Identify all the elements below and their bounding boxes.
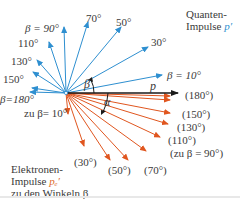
bottom-divider: [0, 196, 240, 198]
label-photon-50: 50°: [116, 16, 131, 28]
photon-arrow-50: [66, 27, 121, 93]
label-alpha-angle: α: [104, 96, 110, 108]
legend-electron: Elektronen- Impulse pₑ′ zu den Winkeln β: [11, 163, 88, 199]
label-electron-70: (70°): [144, 164, 167, 176]
alpha-arc-arrowhead: [101, 110, 106, 115]
electron-symbol: pₑ′: [49, 175, 60, 187]
electron-arrow-30: [66, 93, 84, 146]
beta-angle-arc: [91, 80, 94, 93]
legend-photon-line2: Impulse p′: [186, 20, 232, 32]
legend-electron-line2: Impulse pₑ′: [11, 175, 88, 187]
label-photon-130: 130°: [11, 55, 32, 67]
label-beta-180: β=180°: [0, 93, 34, 105]
label-beta-angle: β: [84, 78, 90, 90]
photon-arrow-90: [64, 27, 66, 93]
legend-electron-line1: Elektronen-: [11, 163, 88, 175]
photon-arrow-130: [37, 60, 66, 93]
legend-photon-line1: Quanten-: [186, 8, 232, 20]
photon-arrow-150: [33, 72, 66, 93]
legend-photon: Quanten- Impulse p′: [186, 8, 232, 32]
electron-arrow-130: [66, 93, 168, 124]
label-photon-110: 110°: [18, 37, 39, 49]
label-incident-p: p: [150, 80, 156, 92]
label-beta-10: β = 10°: [167, 69, 201, 81]
label-electron-50: (50°): [108, 164, 131, 176]
label-photon-30: 30°: [151, 36, 166, 48]
label-zu-beta-10: zu β= 10°: [24, 107, 67, 119]
label-photon-150: 150°: [3, 73, 24, 85]
electron-momentum-arrows: [66, 93, 170, 160]
label-electron-150: (150°): [182, 108, 210, 120]
label-electron-110: (110°): [168, 134, 196, 146]
label-photon-70: 70°: [86, 12, 101, 24]
label-beta-90: β = 90°: [25, 22, 59, 34]
photon-arrow-10: [66, 75, 162, 93]
photon-arrow-110: [49, 42, 66, 93]
origin-point: [64, 91, 67, 94]
label-electron-180: (180°): [185, 89, 213, 101]
photon-symbol: p′: [224, 20, 232, 32]
label-electron-130: (130°): [177, 121, 205, 133]
label-electron-90: (zu β = 90°): [170, 147, 223, 159]
